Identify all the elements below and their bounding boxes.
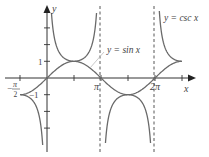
csc-curve-branch — [20, 95, 43, 145]
x-axis-label: x — [183, 83, 189, 94]
fraction-numerator: π — [13, 80, 18, 89]
x-tick-label-neg-pi-over-2: − π 2 — [7, 80, 20, 99]
y-axis-label: y — [51, 3, 57, 14]
sin-label-leader — [90, 52, 104, 68]
sin-curve-label: y = sin x — [106, 45, 141, 55]
y-tick-label-1: 1 — [38, 57, 43, 67]
y-tick-label-neg1: −1 — [29, 90, 39, 100]
csc-curve-branch — [105, 95, 150, 143]
fraction-denominator: 2 — [14, 90, 18, 99]
csc-curve-label: y = csc x — [163, 13, 199, 23]
csc-curve-branch — [51, 13, 96, 61]
x-axis-arrow-icon — [188, 75, 196, 82]
x-tick-label-2pi: 2π — [150, 81, 161, 92]
asymptotes — [100, 6, 154, 152]
neg-sign: − — [7, 83, 12, 93]
x-tick-label-pi: π — [94, 81, 100, 92]
trig-plot: y x 1 −1 π 2π − π 2 y = sin x y = csc x — [0, 0, 209, 157]
y-axis-arrow-icon — [44, 5, 51, 13]
